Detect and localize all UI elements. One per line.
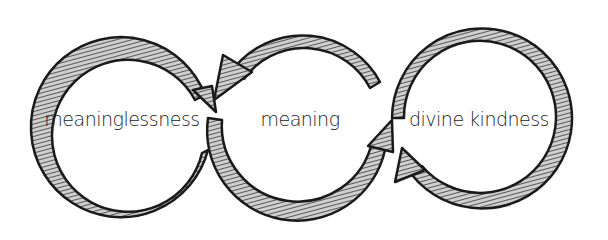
arrowhead-icon [368, 120, 393, 152]
label-divine-kindness: divine kindness [409, 108, 549, 130]
label-meaning: meaning [260, 108, 339, 130]
label-meaninglessness: meaninglessness [44, 108, 199, 130]
